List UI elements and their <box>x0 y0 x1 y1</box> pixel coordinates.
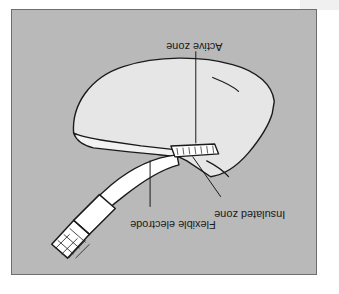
figure-panel: Active zone Insulated zone Flexible elec… <box>11 9 317 275</box>
label-active-zone: Active zone <box>166 41 222 53</box>
electrode-active-tip <box>171 144 219 157</box>
active-tip-plate <box>171 144 219 157</box>
figure-root: Active zone Insulated zone Flexible elec… <box>0 0 339 294</box>
label-insulated-zone: Insulated zone <box>214 209 285 221</box>
electrode-handle <box>52 195 116 259</box>
illustration: Active zone Insulated zone Flexible elec… <box>12 10 316 274</box>
label-flexible-electrode: Flexible electrode <box>130 219 216 231</box>
